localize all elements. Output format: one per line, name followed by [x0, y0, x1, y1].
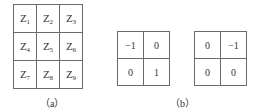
cell-label: Z [66, 40, 73, 52]
kernel-2-grid: 0 −1 0 0 [194, 31, 247, 86]
kernel-cell: −1 [118, 32, 144, 59]
caption-b: （b） [170, 95, 195, 110]
kernel-cell: 0 [118, 59, 144, 86]
kernel-cell: 1 [144, 59, 170, 86]
cell-z2: Z2 [37, 5, 60, 33]
cell-subscript: 3 [73, 18, 77, 26]
cell-subscript: 2 [50, 18, 54, 26]
kernel-1-grid: −1 0 0 1 [117, 31, 170, 86]
cell-label: Z [20, 68, 27, 80]
kernel-cell: −1 [221, 32, 247, 59]
cell-subscript: 5 [50, 46, 54, 54]
cell-subscript: 8 [50, 74, 54, 82]
cell-label: Z [20, 40, 27, 52]
cell-label: Z [66, 12, 73, 24]
cell-z8: Z8 [37, 61, 60, 89]
cell-z7: Z7 [14, 61, 37, 89]
cell-z5: Z5 [37, 33, 60, 61]
cell-label: Z [43, 68, 50, 80]
cell-label: Z [20, 12, 27, 24]
caption-a: （a） [40, 95, 64, 110]
kernel-cell: 0 [144, 32, 170, 59]
cell-subscript: 9 [73, 74, 77, 82]
cell-label: Z [43, 12, 50, 24]
cell-z6: Z6 [60, 33, 83, 61]
cell-subscript: 1 [27, 18, 31, 26]
kernel-cell: 0 [195, 32, 221, 59]
cell-z4: Z4 [14, 33, 37, 61]
cell-z9: Z9 [60, 61, 83, 89]
cell-z1: Z1 [14, 5, 37, 33]
pixel-neighborhood-grid: Z1 Z2 Z3 Z4 Z5 Z6 Z7 Z8 Z9 [13, 4, 83, 89]
cell-subscript: 7 [27, 74, 31, 82]
cell-subscript: 4 [27, 46, 31, 54]
cell-z3: Z3 [60, 5, 83, 33]
cell-label: Z [43, 40, 50, 52]
cell-subscript: 6 [73, 46, 77, 54]
cell-label: Z [66, 68, 73, 80]
kernel-cell: 0 [195, 59, 221, 86]
kernel-cell: 0 [221, 59, 247, 86]
